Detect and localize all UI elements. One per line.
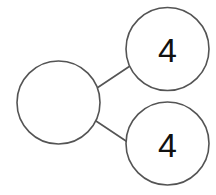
- bond-node-part-top[interactable]: 4: [126, 8, 209, 91]
- whole-circle[interactable]: [17, 61, 100, 144]
- top-part-value: 4: [158, 31, 177, 69]
- bottom-part-value: 4: [158, 126, 177, 164]
- number-bond-diagram: 4 4: [0, 0, 216, 195]
- bond-link-whole-to-top-part: [97, 66, 130, 88]
- number-bond-canvas: 4 4: [0, 0, 216, 195]
- bond-node-part-bottom[interactable]: 4: [126, 102, 209, 185]
- bond-node-whole[interactable]: [17, 61, 100, 144]
